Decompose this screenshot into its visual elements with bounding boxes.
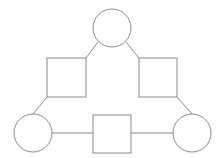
node-left-square[interactable] [47, 58, 86, 97]
edge-left-square-bottom-left-circle [33, 97, 47, 114]
node-bottom-center-square[interactable] [93, 115, 131, 153]
node-bottom-left-circle[interactable] [14, 114, 52, 152]
edge-right-square-bottom-right-circle [177, 97, 192, 114]
nodes-layer [14, 9, 211, 153]
node-bottom-right-circle[interactable] [173, 114, 211, 152]
node-top-circle[interactable] [93, 9, 131, 47]
edge-top-circle-left-square [86, 42, 98, 58]
edge-top-circle-right-square [126, 42, 139, 58]
diagram-canvas [0, 0, 222, 158]
node-right-square[interactable] [139, 58, 177, 97]
node-link-diagram [0, 0, 222, 158]
